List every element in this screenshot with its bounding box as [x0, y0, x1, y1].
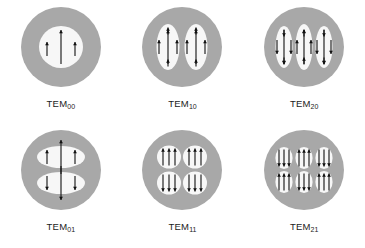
mode-label-tem10: TEM10: [168, 99, 196, 109]
mode-pattern-tem11: [132, 125, 232, 221]
mode-label-subscript: 01: [67, 226, 75, 233]
mode-pattern-tem10: [132, 2, 232, 98]
mode-label-tem21: TEM21: [290, 222, 318, 232]
mode-diagram-tem00: [11, 2, 111, 98]
mode-label-tem01: TEM01: [47, 222, 75, 232]
mode-diagram-tem21: [254, 125, 354, 221]
mode-pattern-tem20: [254, 2, 354, 98]
mode-diagram-tem10: [132, 2, 232, 98]
mode-diagram-tem01: [11, 125, 111, 221]
mode-label-subscript: 11: [189, 226, 196, 233]
beam-aperture-disc: [142, 130, 222, 210]
mode-label-base: TEM: [290, 221, 311, 232]
beam-aperture-disc: [264, 130, 344, 210]
mode-pattern-tem01: [11, 125, 111, 221]
mode-cell-tem10: TEM10: [122, 2, 244, 125]
mode-cell-tem11: TEM11: [122, 125, 244, 248]
mode-label-tem20: TEM20: [290, 99, 318, 109]
mode-label-subscript: 20: [311, 103, 319, 110]
mode-label-base: TEM: [169, 221, 190, 232]
mode-label-subscript: 00: [67, 103, 75, 110]
lobe-group: [39, 26, 83, 68]
mode-label-base: TEM: [47, 98, 68, 109]
mode-pattern-tem00: [11, 2, 111, 98]
lobe-group: [275, 24, 333, 70]
mode-label-tem00: TEM00: [47, 99, 75, 109]
mode-cell-tem01: TEM01: [0, 125, 122, 248]
mode-label-base: TEM: [290, 98, 311, 109]
mode-pattern-tem21: [254, 125, 354, 221]
mode-cell-tem20: TEM20: [243, 2, 365, 125]
mode-label-tem11: TEM11: [169, 222, 197, 232]
mode-diagram-tem11: [132, 125, 232, 221]
mode-diagram-tem20: [254, 2, 354, 98]
mode-label-base: TEM: [47, 221, 68, 232]
mode-label-subscript: 21: [311, 226, 319, 233]
mode-cell-tem00: TEM00: [0, 2, 122, 125]
mode-label-subscript: 10: [189, 103, 197, 110]
mode-cell-tem21: TEM21: [243, 125, 365, 248]
mode-label-base: TEM: [168, 98, 189, 109]
tem-mode-grid: TEM00TEM10TEM20TEM01TEM11TEM21: [0, 0, 365, 248]
beam-aperture-disc: [142, 7, 222, 87]
